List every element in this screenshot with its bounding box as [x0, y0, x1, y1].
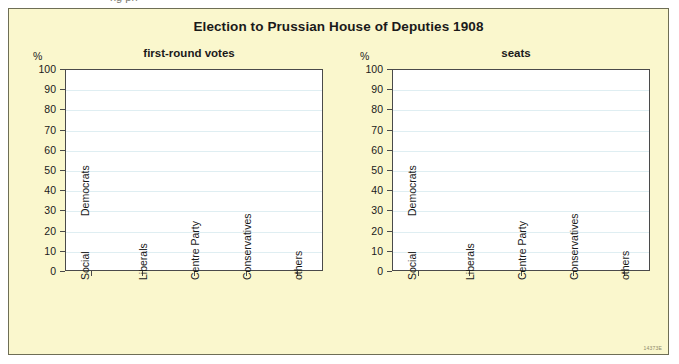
- y-axis-tick-label: 70: [349, 124, 383, 136]
- gridline: [66, 110, 322, 111]
- y-axis-tick-mark: [387, 170, 392, 171]
- y-axis-tick-label: 10: [22, 245, 56, 257]
- y-axis-tick-label: 60: [349, 144, 383, 156]
- y-axis-tick-mark: [60, 150, 65, 151]
- y-axis: 0102030405060708090100: [346, 69, 392, 271]
- y-axis-tick-mark: [387, 271, 392, 272]
- gridline: [66, 191, 322, 192]
- gridline: [393, 191, 649, 192]
- y-axis-tick-mark: [60, 170, 65, 171]
- gridline: [393, 131, 649, 132]
- chart-subtitle: seats: [386, 47, 646, 59]
- y-axis-tick-label: 100: [22, 63, 56, 75]
- y-axis: 0102030405060708090100: [19, 69, 65, 271]
- gridline: [66, 211, 322, 212]
- y-axis-tick-mark: [60, 271, 65, 272]
- gridline: [66, 131, 322, 132]
- gridline: [393, 90, 649, 91]
- y-axis-tick-mark: [387, 231, 392, 232]
- y-axis-tick-label: 80: [349, 103, 383, 115]
- y-axis-tick-label: 50: [22, 164, 56, 176]
- y-axis-tick-mark: [387, 109, 392, 110]
- gridline: [66, 171, 322, 172]
- y-axis-tick-label: 20: [349, 225, 383, 237]
- figure-title: Election to Prussian House of Deputies 1…: [9, 19, 668, 34]
- cut-off-text-sliver: ng ph: [0, 0, 679, 8]
- x-axis-tick-label-line: Social: [80, 216, 92, 280]
- chart-first-round-votes: first-round votes % 01020304050607080901…: [19, 47, 331, 347]
- y-axis-tick-mark: [60, 89, 65, 90]
- gridline: [393, 171, 649, 172]
- y-axis-tick-label: 0: [22, 265, 56, 277]
- y-axis-tick-label: 80: [22, 103, 56, 115]
- chart-subtitle: first-round votes: [59, 47, 319, 59]
- gridline: [66, 90, 322, 91]
- y-axis-tick-label: 30: [349, 204, 383, 216]
- y-axis-tick-label: 70: [22, 124, 56, 136]
- gridline: [66, 151, 322, 152]
- y-axis-tick-label: 50: [349, 164, 383, 176]
- y-axis-unit-label: %: [33, 50, 42, 62]
- y-axis-tick-label: 10: [349, 245, 383, 257]
- y-axis-tick-mark: [60, 190, 65, 191]
- x-axis-tick-label-line: Democrats: [407, 152, 419, 216]
- y-axis-tick-mark: [387, 130, 392, 131]
- x-axis-tick-label-line: Social: [407, 216, 419, 280]
- gridline: [393, 110, 649, 111]
- y-axis-tick-label: 20: [22, 225, 56, 237]
- gridline: [393, 211, 649, 212]
- y-axis-tick-label: 90: [22, 83, 56, 95]
- y-axis-tick-mark: [60, 251, 65, 252]
- y-axis-unit-label: %: [360, 50, 369, 62]
- y-axis-tick-label: 40: [349, 184, 383, 196]
- x-axis-tick-label-line: Democrats: [80, 152, 92, 216]
- y-axis-tick-mark: [60, 109, 65, 110]
- y-axis-tick-label: 40: [22, 184, 56, 196]
- y-axis-tick-mark: [387, 210, 392, 211]
- y-axis-tick-mark: [387, 69, 392, 70]
- y-axis-tick-label: 90: [349, 83, 383, 95]
- cut-off-text: ng ph: [110, 0, 138, 3]
- y-axis-tick-mark: [60, 210, 65, 211]
- gridline: [393, 151, 649, 152]
- y-axis-tick-mark: [387, 251, 392, 252]
- y-axis-tick-mark: [387, 150, 392, 151]
- y-axis-tick-mark: [387, 89, 392, 90]
- figure-panel: Election to Prussian House of Deputies 1…: [8, 8, 669, 355]
- y-axis-tick-label: 100: [349, 63, 383, 75]
- chart-seats: seats % 0102030405060708090100 SocialDem…: [346, 47, 658, 347]
- y-axis-tick-mark: [387, 190, 392, 191]
- plate-code: 14373E: [644, 345, 662, 351]
- y-axis-tick-label: 0: [349, 265, 383, 277]
- y-axis-tick-label: 30: [22, 204, 56, 216]
- y-axis-tick-mark: [60, 130, 65, 131]
- y-axis-tick-mark: [60, 231, 65, 232]
- y-axis-tick-label: 60: [22, 144, 56, 156]
- y-axis-tick-mark: [60, 69, 65, 70]
